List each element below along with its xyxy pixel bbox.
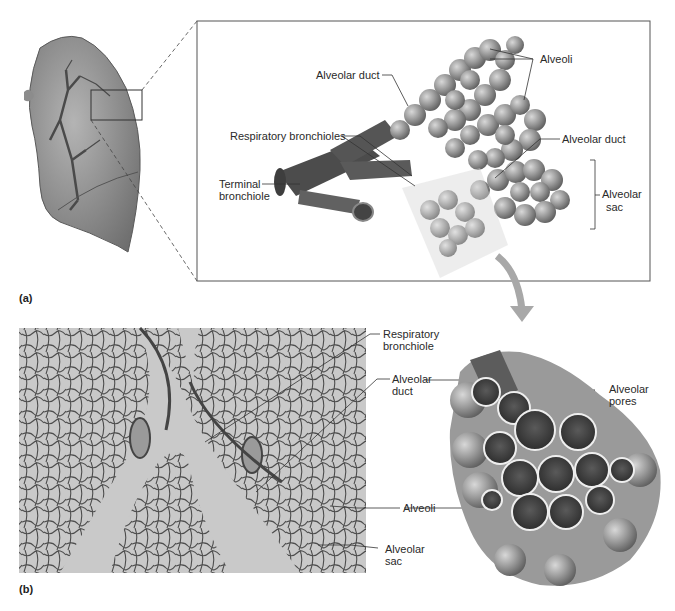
label-terminal-bronchiole-line2: bronchiole (219, 190, 270, 202)
figure-artwork (0, 0, 675, 611)
label-respiratory-bronchioles: Respiratory bronchioles (230, 130, 346, 142)
label-alveolar-duct-right: Alveolar duct (562, 133, 626, 145)
label-alveolar-duct-upper: Alveolar duct (316, 69, 380, 81)
label-alveolar-duct-b-line1: Alveolar (392, 373, 432, 385)
label-terminal-bronchiole-line1: Terminal (219, 178, 261, 190)
label-alveolar-pores-line2: pores (609, 395, 637, 407)
panel-a-label: (a) (19, 292, 32, 304)
label-respiratory-bronchiole-line2: bronchiole (383, 340, 434, 352)
label-alveoli-b: Alveoli (403, 502, 435, 514)
zoom-line-top (142, 21, 197, 90)
label-alveolar-sac-a-line1: Alveolar (602, 188, 642, 200)
label-respiratory-bronchiole-line1: Respiratory (383, 328, 439, 340)
lung-illustration (24, 36, 142, 252)
label-alveoli-a: Alveoli (540, 53, 572, 65)
micrograph (19, 328, 366, 573)
label-alveolar-duct-b-line2: duct (392, 385, 413, 397)
arrow-head-icon (510, 306, 534, 322)
label-alveolar-sac-a-line2: sac (606, 201, 623, 213)
panel-b-label: (b) (19, 583, 33, 595)
inset-box (197, 21, 650, 281)
label-alveolar-sac-b-line1: Alveolar (385, 543, 425, 555)
label-alveolar-pores-line1: Alveolar (609, 383, 649, 395)
label-alveolar-sac-b-line2: sac (385, 555, 402, 567)
